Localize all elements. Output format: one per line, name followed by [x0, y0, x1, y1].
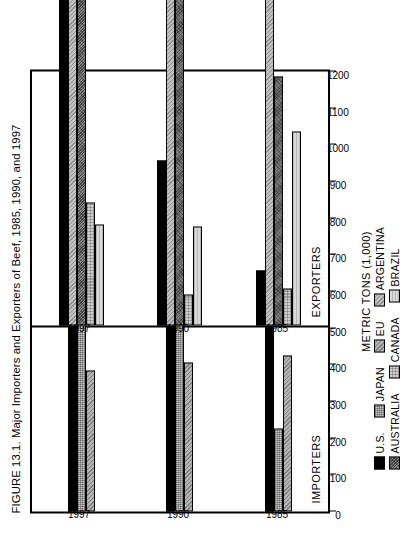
bar-argentina-1985: [265, 0, 274, 325]
axis-tick-label: 1200: [327, 69, 349, 80]
panel-exporters: EXPORTERS: [32, 71, 328, 325]
legend-item-eu[interactable]: EU: [374, 321, 386, 352]
legend-label: JAPAN: [374, 367, 386, 401]
bar-australia-1990: [175, 0, 184, 325]
legend-item-japan[interactable]: JAPAN: [374, 367, 386, 417]
bar-brazil-1997: [95, 224, 104, 325]
panel-importers: IMPORTERS: [32, 325, 328, 511]
bar-canada-1990: [184, 294, 193, 325]
category-label-1997: 1997: [68, 322, 90, 333]
bar-australia-1985: [274, 76, 283, 325]
bar-group-1985: [229, 327, 328, 511]
legend-swatch-icon: [374, 456, 385, 469]
legend-swatch-icon: [389, 456, 400, 469]
legend-row-1: U.S.JAPANEUARGENTINA: [372, 53, 387, 469]
legend-swatch-icon: [389, 365, 400, 378]
legend-swatch-icon: [374, 339, 385, 352]
bar-argentina-1990: [166, 0, 175, 325]
bar-group-1990: [131, 327, 230, 511]
bar-eu-1990: [184, 363, 193, 512]
axis-tick-label: 1100: [327, 106, 349, 117]
legend-item-canada[interactable]: CANADA: [389, 317, 400, 378]
category-label-1985: 1985: [266, 322, 288, 333]
legend-label: ARGENTINA: [374, 227, 386, 290]
category-label-1990: 1990: [167, 508, 189, 519]
legend-label: BRAZIL: [389, 248, 400, 286]
axis-tick-label: 800: [330, 216, 347, 227]
bar-eu-1997: [86, 370, 95, 511]
bar-group-1990: [131, 71, 230, 325]
axis-tick-label: 900: [330, 179, 347, 190]
bar-us-1985: [256, 270, 265, 325]
value-axis: 0100200300400500600700800900100011001200: [330, 69, 364, 513]
bar-brazil-1990: [193, 226, 202, 325]
axis-tick-label: 500: [330, 326, 347, 337]
legend-item-brazil[interactable]: BRAZIL: [389, 248, 400, 302]
bar-australia-1997: [77, 0, 86, 325]
legend-label: AUSTRALIA: [389, 393, 400, 453]
bar-argentina-1997: [68, 0, 77, 325]
legend-label: EU: [374, 321, 386, 336]
bar-group-1985: [229, 71, 328, 325]
bar-us-1997: [59, 0, 68, 325]
axis-tick-label: 100: [330, 472, 347, 483]
legend-item-us[interactable]: U.S.: [374, 432, 386, 469]
bar-canada-1997: [86, 202, 95, 325]
axis-tick-label: 300: [330, 399, 347, 410]
legend-swatch-icon: [374, 293, 385, 306]
bar-brazil-1985: [292, 131, 301, 325]
bar-canada-1985: [283, 288, 292, 325]
axis-tick-label: 200: [330, 436, 347, 447]
figure-canvas: FIGURE 13.1. Major Importers and Exporte…: [0, 0, 400, 547]
legend-swatch-icon: [374, 404, 385, 417]
legend-item-australia[interactable]: AUSTRALIA: [389, 393, 400, 469]
bar-group-1997: [32, 71, 131, 325]
bar-japan-1990: [175, 313, 184, 511]
bar-japan-1985: [274, 429, 283, 512]
axis-tick-label: 400: [330, 362, 347, 373]
bar-eu-1985: [283, 355, 292, 511]
figure-title: FIGURE 13.1. Major Importers and Exporte…: [10, 124, 22, 513]
legend-label: CANADA: [389, 317, 400, 362]
category-label-1990: 1990: [167, 322, 189, 333]
axis-tick-label: 600: [330, 289, 347, 300]
axis-tick-label: 1000: [327, 142, 349, 153]
axis-tick-label: 700: [330, 252, 347, 263]
legend: U.S.JAPANEUARGENTINA AUSTRALIACANADABRAZ…: [372, 53, 400, 513]
legend-row-2: AUSTRALIACANADABRAZIL: [387, 53, 400, 469]
axis-title: METRIC TONS (1,000): [360, 69, 372, 513]
axis-tick-label: 0: [335, 509, 341, 520]
plot-area: IMPORTERS EXPORTERS: [30, 69, 330, 513]
legend-item-argentina[interactable]: ARGENTINA: [374, 227, 386, 306]
bar-us-1990: [157, 160, 166, 325]
category-label-1985: 1985: [266, 508, 288, 519]
legend-swatch-icon: [389, 289, 400, 302]
bar-group-1997: [32, 327, 131, 511]
category-label-1997: 1997: [68, 508, 90, 519]
legend-label: U.S.: [374, 432, 386, 453]
